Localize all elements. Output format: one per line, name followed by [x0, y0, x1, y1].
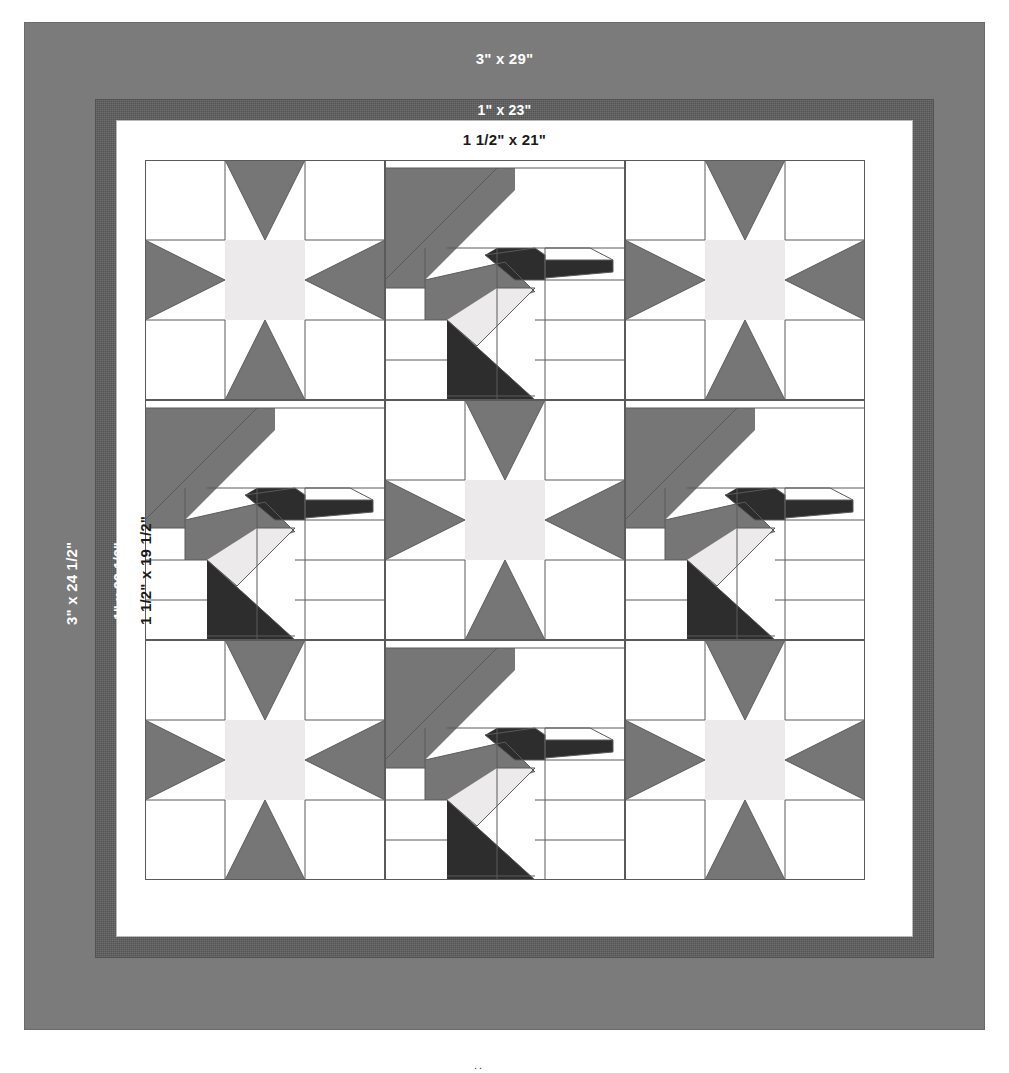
block-bird [385, 640, 625, 880]
block-star [145, 160, 385, 400]
quilt-diagram: 3" x 29" 1" x 23" 1 1/2" x 21" 3" x 24 1… [0, 0, 1009, 1073]
block-bird [625, 400, 865, 640]
block-star [385, 400, 625, 640]
block-star [625, 640, 865, 880]
quilt-body [145, 160, 865, 880]
label-top-outer-border: 3" x 29" [0, 50, 1009, 67]
label-top-middle-border: 1" x 23" [0, 102, 1009, 118]
block-bird [385, 160, 625, 400]
label-left-inner-border: 1 1/2" x 19 1/2" [137, 516, 154, 625]
block-star [625, 160, 865, 400]
label-left-middle-border: 1" x 22 1/2" [111, 542, 127, 620]
label-top-inner-border: 1 1/2" x 21" [0, 131, 1009, 148]
bottom-mark: .. [474, 1062, 488, 1068]
label-left-outer-border: 3" x 24 1/2" [63, 542, 80, 625]
block-star [145, 640, 385, 880]
block-bird [145, 400, 385, 640]
